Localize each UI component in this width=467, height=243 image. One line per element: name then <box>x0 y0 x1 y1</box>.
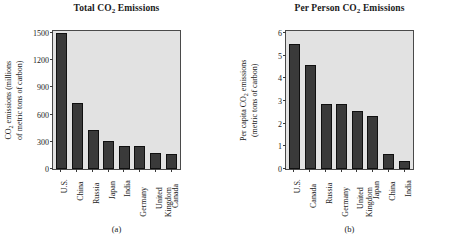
x-axis-tick-mark <box>356 169 357 172</box>
y-axis-title-a-sub: 2 <box>8 125 14 128</box>
x-axis-tick-mark <box>76 169 77 172</box>
x-axis-tick-mark <box>341 169 342 172</box>
y-axis-tick-label: 2 <box>242 119 286 128</box>
y-axis-tick-mark <box>50 141 53 142</box>
x-axis-tick-label: U.S. <box>60 179 69 193</box>
x-axis-tick-label-line: Russia <box>325 183 334 204</box>
bar <box>383 154 394 169</box>
y-axis-tick-mark <box>50 168 53 169</box>
x-axis-tick-label-line: Russia <box>92 183 101 204</box>
x-axis-tick-mark <box>388 169 389 172</box>
y-axis-tick-label: 1200 <box>9 56 53 65</box>
x-axis-tick-label: Germany <box>341 187 350 217</box>
bar <box>150 153 161 169</box>
x-axis-tick-label: Canada <box>309 184 318 208</box>
bar <box>289 44 300 169</box>
y-axis-tick-mark <box>283 168 286 169</box>
bar <box>56 33 67 169</box>
x-axis-labels-b: U.S.CanadaRussiaGermanyUnitedKingdomJapa… <box>285 172 414 232</box>
bar <box>72 103 83 169</box>
y-axis-title-a-line2: of metric tons of carbon) <box>15 60 25 140</box>
plot-area-a: 030060090012001500 <box>52 30 181 170</box>
x-axis-tick-label-line: Germany <box>139 187 148 217</box>
chart-title-b-pre: Per Person CO <box>295 3 357 13</box>
y-axis-tick-label: 600 <box>9 110 53 119</box>
chart-title-b-sub: 2 <box>357 7 361 15</box>
y-axis-tick-label: 300 <box>9 137 53 146</box>
chart-title-a-sub: 2 <box>112 7 116 15</box>
y-axis-tick-label: 1 <box>242 142 286 151</box>
x-axis-tick-mark <box>293 169 294 172</box>
chart-title-b-post: Emissions <box>360 3 404 13</box>
y-axis-tick-mark <box>283 55 286 56</box>
bar <box>352 111 363 169</box>
bar <box>103 141 114 169</box>
x-axis-tick-label: U.S. <box>293 179 302 193</box>
y-axis-tick-mark <box>283 77 286 78</box>
x-axis-tick-label: Germany <box>139 187 148 217</box>
x-axis-tick-label-line: Germany <box>341 187 350 217</box>
y-axis-tick-mark <box>283 100 286 101</box>
co2-emissions-figure: Total CO2 Emissions CO2 emissions (milli… <box>0 0 467 243</box>
x-axis-tick-mark <box>404 169 405 172</box>
x-axis-tick-label-line: India <box>123 180 132 196</box>
chart-title-a: Total CO2 Emissions <box>0 3 233 13</box>
bar <box>321 104 332 169</box>
y-axis-title-a: CO2 emissions (millions of metric tons o… <box>4 60 24 140</box>
y-axis-tick-label: 1500 <box>9 29 53 38</box>
panel-caption-b: (b) <box>233 224 466 234</box>
x-axis-tick-mark <box>309 169 310 172</box>
y-axis-tick-mark <box>50 114 53 115</box>
y-axis-tick-label: 3 <box>242 97 286 106</box>
x-axis-tick-label-line: United <box>155 187 164 217</box>
x-axis-labels-a: U.S.ChinaRussiaJapanIndiaGermanyUnitedKi… <box>52 172 181 232</box>
bar <box>134 146 145 169</box>
y-axis-tick-label: 4 <box>242 74 286 83</box>
y-axis-tick-label: 5 <box>242 51 286 60</box>
x-axis-tick-label: Canada <box>171 184 180 208</box>
y-axis-tick-mark <box>283 32 286 33</box>
y-axis-tick-mark <box>283 123 286 124</box>
x-axis-tick-label: India <box>404 180 413 196</box>
y-axis-title-b-sub: 2 <box>243 93 249 96</box>
chart-panel-a: Total CO2 Emissions CO2 emissions (milli… <box>0 0 233 243</box>
bar <box>399 161 410 169</box>
x-axis-tick-label: India <box>123 180 132 196</box>
x-axis-tick-mark <box>325 169 326 172</box>
x-axis-tick-label-line: U.S. <box>293 179 302 193</box>
y-axis-tick-label: 900 <box>9 83 53 92</box>
x-axis-tick-mark <box>108 169 109 172</box>
x-axis-tick-label: Russia <box>325 183 334 204</box>
bar <box>119 146 130 169</box>
x-axis-tick-label: Japan <box>372 181 381 199</box>
x-axis-tick-mark <box>155 169 156 172</box>
x-axis-tick-label-line: Canada <box>171 184 180 208</box>
x-axis-tick-mark <box>123 169 124 172</box>
bar <box>88 130 99 169</box>
bar <box>305 65 316 169</box>
chart-panel-b: Per Person CO2 Emissions Per capita CO2 … <box>233 0 466 243</box>
plot-area-b: 0123456 <box>285 30 414 170</box>
x-axis-tick-mark <box>139 169 140 172</box>
bar <box>166 154 177 169</box>
x-axis-tick-label-line: India <box>404 180 413 196</box>
y-axis-tick-mark <box>283 145 286 146</box>
x-axis-tick-mark <box>60 169 61 172</box>
x-axis-tick-label-line: U.S. <box>60 179 69 193</box>
chart-title-a-post: Emissions <box>115 3 159 13</box>
y-axis-tick-mark <box>50 86 53 87</box>
x-axis-tick-label-line: China <box>388 182 397 201</box>
x-axis-tick-mark <box>171 169 172 172</box>
chart-title-b: Per Person CO2 Emissions <box>233 3 466 13</box>
x-axis-tick-label: Japan <box>108 181 117 199</box>
panel-caption-a: (a) <box>0 224 233 234</box>
x-axis-tick-label: China <box>76 182 85 201</box>
y-axis-title-a-line1: CO2 emissions (millions <box>4 60 15 140</box>
x-axis-tick-label: Russia <box>92 183 101 204</box>
y-axis-tick-label: 6 <box>242 29 286 38</box>
x-axis-tick-label-line: Japan <box>372 181 381 199</box>
y-axis-tick-mark <box>50 59 53 60</box>
x-axis-tick-label-line: China <box>76 182 85 201</box>
x-axis-tick-label-line: Japan <box>108 181 117 199</box>
bar-series-a <box>53 31 180 169</box>
